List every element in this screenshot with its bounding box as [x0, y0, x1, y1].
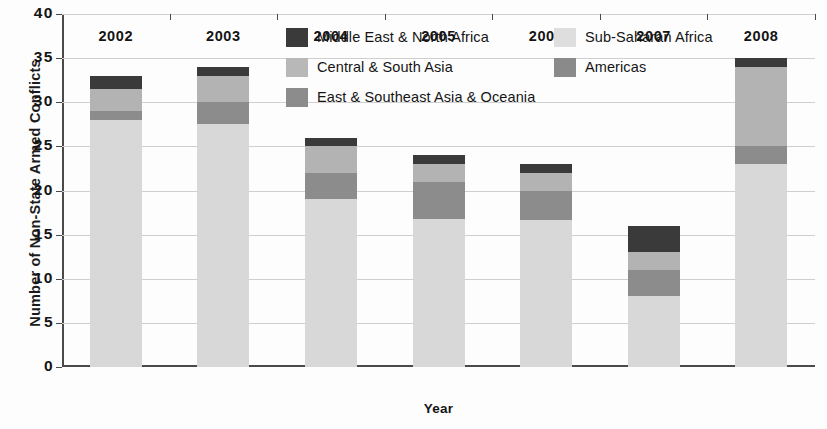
bar-2005 — [413, 155, 465, 367]
bar-segment — [413, 219, 465, 367]
bar-segment — [305, 173, 357, 199]
y-axis-tick-label: 30 — [8, 92, 54, 110]
legend-item: Central & South Asia — [286, 58, 554, 77]
legend-swatch — [286, 58, 308, 77]
legend-item: Sub-Saharan Africa — [554, 28, 794, 47]
bar-segment — [628, 226, 680, 252]
legend-label: East & Southeast Asia & Oceania — [317, 89, 535, 105]
y-axis-tick-label: 5 — [8, 313, 54, 331]
x-axis-tick-label: 2002 — [98, 28, 133, 44]
bar-2002 — [90, 76, 142, 367]
tick-mark — [56, 279, 62, 280]
bar-segment — [305, 146, 357, 172]
bar-segment — [197, 76, 249, 102]
bar-segment — [413, 164, 465, 182]
bar-segment — [197, 102, 249, 124]
bar-segment — [90, 76, 142, 89]
x-axis-title: Year — [62, 401, 815, 416]
y-axis-tick-label: 15 — [8, 225, 54, 243]
x-axis-tick — [170, 14, 171, 20]
bar-segment — [520, 191, 572, 220]
x-axis-tick — [277, 14, 278, 20]
x-axis-tick — [492, 14, 493, 20]
legend-item: East & Southeast Asia & Oceania — [286, 88, 554, 107]
legend-label: Americas — [585, 59, 646, 75]
bar-segment — [90, 111, 142, 120]
bar-segment — [520, 220, 572, 367]
legend-label: Central & South Asia — [317, 59, 453, 75]
legend-swatch — [286, 88, 308, 107]
chart-legend: Middle East & North AfricaSub-Saharan Af… — [286, 22, 794, 112]
y-axis-tick-label: 40 — [8, 4, 54, 22]
bar-2004 — [305, 138, 357, 367]
bar-segment — [735, 164, 787, 367]
tick-mark — [56, 323, 62, 324]
bar-segment — [90, 120, 142, 367]
y-axis-tick-label: 10 — [8, 269, 54, 287]
tick-mark — [56, 102, 62, 103]
tick-mark — [56, 58, 62, 59]
gridline — [62, 14, 815, 15]
x-axis-tick-label: 2003 — [206, 28, 241, 44]
bar-2006 — [520, 164, 572, 367]
x-axis-tick — [707, 14, 708, 20]
tick-mark — [56, 14, 62, 15]
legend-label: Middle East & North Africa — [317, 29, 489, 45]
legend-item: Middle East & North Africa — [286, 28, 554, 47]
legend-swatch — [554, 58, 576, 77]
stacked-bar-chart: Number of Non-State Armed Conflicts 0510… — [0, 0, 827, 429]
legend-label: Sub-Saharan Africa — [585, 29, 713, 45]
x-axis-tick — [600, 14, 601, 20]
x-axis-tick — [815, 14, 816, 20]
bar-segment — [305, 138, 357, 147]
tick-mark — [56, 235, 62, 236]
bar-segment — [628, 270, 680, 296]
tick-mark — [56, 367, 62, 368]
bar-segment — [735, 146, 787, 164]
legend-swatch — [286, 28, 308, 47]
gridline — [62, 146, 815, 147]
bar-2003 — [197, 67, 249, 367]
legend-swatch — [554, 28, 576, 47]
tick-mark — [56, 191, 62, 192]
bar-segment — [628, 296, 680, 367]
x-axis-tick — [385, 14, 386, 20]
bar-segment — [305, 199, 357, 367]
bar-segment — [197, 67, 249, 76]
bar-segment — [197, 124, 249, 367]
legend-item: Americas — [554, 58, 794, 77]
bar-segment — [520, 173, 572, 191]
bar-segment — [413, 155, 465, 164]
bar-segment — [413, 182, 465, 219]
bar-segment — [520, 164, 572, 173]
bar-2007 — [628, 226, 680, 367]
tick-mark — [56, 146, 62, 147]
y-axis-tick-label: 35 — [8, 48, 54, 66]
y-axis-tick-label: 0 — [8, 357, 54, 375]
bar-segment — [90, 89, 142, 111]
bar-segment — [628, 252, 680, 270]
y-axis-tick-label: 25 — [8, 136, 54, 154]
y-axis-tick-label: 20 — [8, 181, 54, 199]
